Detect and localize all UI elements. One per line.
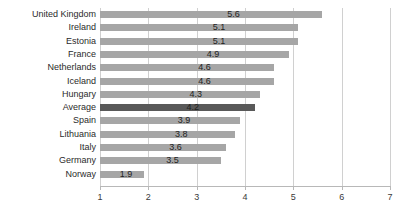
category-label: Iceland [0, 75, 96, 88]
x-tick-label: 2 [133, 192, 163, 203]
category-label: Netherlands [0, 61, 96, 74]
x-tick-mark [148, 186, 149, 190]
bar-row: France4.9 [0, 48, 410, 61]
bar-container [100, 88, 260, 101]
bar [100, 104, 255, 111]
bar-value-label: 1.9 [113, 168, 139, 181]
category-label: Spain [0, 114, 96, 127]
bar-container [100, 114, 240, 127]
category-label: Norway [0, 168, 96, 181]
bar [100, 11, 322, 18]
bar [100, 91, 260, 98]
bar-container [100, 35, 298, 48]
bar-value-label: 4.2 [180, 101, 206, 114]
x-tick-mark [342, 186, 343, 190]
bar-row: Lithuania3.8 [0, 128, 410, 141]
category-label: Estonia [0, 35, 96, 48]
bar-value-label: 3.6 [162, 141, 188, 154]
bar-row: United Kingdom5.6 [0, 8, 410, 21]
bar-row: Hungary4.3 [0, 88, 410, 101]
x-tick-label: 5 [278, 192, 308, 203]
category-label: France [0, 48, 96, 61]
bar-row: Italy3.6 [0, 141, 410, 154]
x-tick-mark [100, 186, 101, 190]
x-tick-mark [197, 186, 198, 190]
bar [100, 24, 298, 31]
category-label: Italy [0, 141, 96, 154]
category-label: United Kingdom [0, 8, 96, 21]
category-label: Lithuania [0, 128, 96, 141]
bar-row: Spain3.9 [0, 114, 410, 127]
bar-container [100, 61, 274, 74]
bar [100, 64, 274, 71]
bar-value-label: 4.3 [183, 88, 209, 101]
bar [100, 117, 240, 124]
x-tick-label: 6 [327, 192, 357, 203]
bar-row: Average4.2 [0, 101, 410, 114]
bar-container [100, 48, 289, 61]
bar-row: Estonia5.1 [0, 35, 410, 48]
bar-value-label: 4.6 [191, 75, 217, 88]
bar-container [100, 21, 298, 34]
x-tick-label: 1 [85, 192, 115, 203]
x-tick-mark [390, 186, 391, 190]
bar-container [100, 101, 255, 114]
bar-value-label: 4.9 [200, 48, 226, 61]
bar-row: Ireland5.1 [0, 21, 410, 34]
bar-row: Norway1.9 [0, 168, 410, 181]
x-tick-mark [293, 186, 294, 190]
bar [100, 51, 289, 58]
bar-value-label: 3.9 [171, 114, 197, 127]
category-label: Ireland [0, 21, 96, 34]
bar-value-label: 5.1 [206, 35, 232, 48]
bar-row: Iceland4.6 [0, 75, 410, 88]
bar-container [100, 75, 274, 88]
bar-value-label: 3.8 [168, 128, 194, 141]
bar [100, 38, 298, 45]
x-tick-label: 7 [375, 192, 405, 203]
category-label: Hungary [0, 88, 96, 101]
bar-row: Germany3.5 [0, 154, 410, 167]
bar-value-label: 5.6 [220, 8, 246, 21]
bar [100, 78, 274, 85]
x-tick-label: 4 [230, 192, 260, 203]
category-label: Average [0, 101, 96, 114]
x-tick-label: 3 [182, 192, 212, 203]
bar-value-label: 3.5 [160, 154, 186, 167]
bar-value-label: 5.1 [206, 21, 232, 34]
bar-value-label: 4.6 [191, 61, 217, 74]
bar-row: Netherlands4.6 [0, 61, 410, 74]
category-label: Germany [0, 154, 96, 167]
bar-chart: 1234567 United Kingdom5.6Ireland5.1Eston… [0, 0, 410, 212]
bar-container [100, 8, 322, 21]
x-tick-mark [245, 186, 246, 190]
